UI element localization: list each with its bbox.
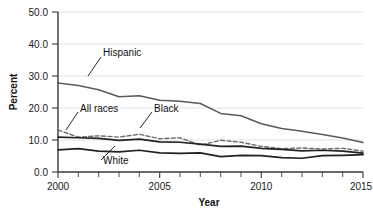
series-label-hispanic: Hispanic bbox=[103, 47, 141, 58]
x-tick-label-2010: 2010 bbox=[250, 181, 273, 192]
chart-container: 50.0 40.0 30.0 20.0 10.0 0.0 20 bbox=[0, 0, 373, 212]
annotation-white: White bbox=[101, 146, 129, 166]
leader-line-black bbox=[140, 112, 152, 128]
annotation-hispanic: Hispanic bbox=[88, 47, 141, 76]
x-axis-title: Year bbox=[198, 197, 219, 208]
y-tick-label-20: 20.0 bbox=[29, 103, 49, 114]
series-label-white: White bbox=[103, 155, 129, 166]
annotation-black: Black bbox=[140, 103, 179, 128]
leader-line-hispanic bbox=[88, 57, 101, 76]
y-tick-label-40: 40.0 bbox=[29, 39, 49, 50]
y-tick-label-10: 10.0 bbox=[29, 135, 49, 146]
series-label-all-races: All races bbox=[80, 103, 118, 114]
y-tick-label-0: 0.0 bbox=[34, 167, 48, 178]
y-axis-title: Percent bbox=[8, 73, 19, 110]
x-axis: 2000 2005 2010 2015 bbox=[47, 172, 373, 192]
x-tick-label-2005: 2005 bbox=[149, 181, 172, 192]
annotation-all-races: All races bbox=[66, 103, 118, 130]
x-tick-label-2000: 2000 bbox=[47, 181, 70, 192]
series-label-black: Black bbox=[154, 103, 179, 114]
y-axis: 50.0 40.0 30.0 20.0 10.0 0.0 bbox=[29, 7, 58, 178]
y-tick-label-50: 50.0 bbox=[29, 7, 49, 18]
gridlines bbox=[58, 12, 363, 140]
y-tick-label-30: 30.0 bbox=[29, 71, 49, 82]
line-chart: 50.0 40.0 30.0 20.0 10.0 0.0 20 bbox=[0, 0, 373, 212]
series-lines bbox=[58, 83, 363, 158]
x-tick-label-2015: 2015 bbox=[350, 181, 373, 192]
leader-line-all-races bbox=[66, 112, 78, 130]
